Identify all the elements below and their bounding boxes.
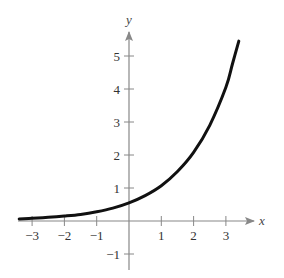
x-tick-label: −1 — [90, 228, 104, 243]
y-tick-label: 3 — [114, 115, 121, 130]
y-axis-label: y — [124, 12, 132, 27]
x-tick-label: 2 — [190, 228, 197, 243]
chart: −3−2−1123 −112345 x y — [0, 0, 284, 278]
x-tick-label: 1 — [158, 228, 165, 243]
y-ticks: −112345 — [106, 49, 134, 262]
y-tick-label: −1 — [106, 247, 120, 262]
y-tick-label: 5 — [114, 49, 121, 64]
x-ticks: −3−2−1123 — [25, 216, 229, 243]
y-tick-label: 2 — [114, 148, 121, 163]
x-axis-label: x — [258, 213, 265, 228]
y-tick-label: 4 — [114, 82, 121, 97]
x-tick-label: −2 — [57, 228, 71, 243]
x-tick-label: 3 — [223, 228, 230, 243]
y-tick-label: 1 — [114, 181, 121, 196]
x-tick-label: −3 — [25, 228, 39, 243]
